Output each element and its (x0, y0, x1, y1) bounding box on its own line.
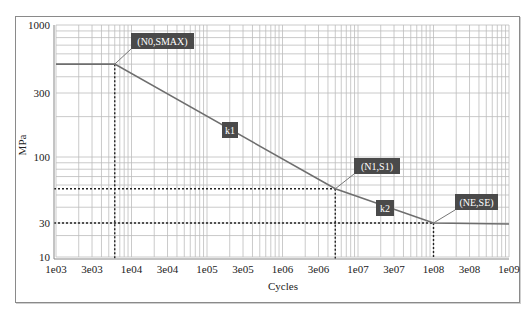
sn-curve-chart: 1e033e031e043e041e053e051e063e061e073e07… (0, 0, 528, 336)
x-tick-label: 3e05 (232, 263, 254, 275)
annotation-ne-se-text: (NE,SE) (459, 197, 493, 209)
x-tick-label: 1e09 (498, 263, 520, 275)
annotations: (N0,SMAX)k1(N1,S1)k2(NE,SE) (115, 33, 498, 223)
x-tick-label: 1e05 (196, 263, 218, 275)
x-tick-label: 1e07 (347, 263, 369, 275)
y-tick-label: 10 (39, 251, 51, 263)
x-tick-label: 1e04 (121, 263, 143, 275)
annotation-k2-text: k2 (380, 203, 390, 214)
x-tick-label: 3e07 (383, 263, 405, 275)
x-tick-label: 3e06 (308, 263, 330, 275)
y-tick-label: 1000 (28, 19, 51, 31)
annotation-leader (434, 210, 456, 223)
y-tick-label: 30 (39, 217, 51, 229)
annotation-n0-smax-text: (N0,SMAX) (137, 36, 187, 48)
y-axis-label: MPa (16, 134, 28, 155)
x-tick-label: 1e03 (45, 263, 67, 275)
x-tick-label: 1e08 (423, 263, 445, 275)
x-tick-label: 3e03 (81, 263, 103, 275)
annotation-n1-s1-text: (N1,S1) (361, 161, 393, 173)
x-tick-label: 3e08 (459, 263, 481, 275)
grid (56, 25, 509, 257)
annotation-leader (115, 49, 131, 64)
annotation-k1-text: k1 (225, 125, 235, 136)
x-tick-label: 3e04 (157, 263, 179, 275)
x-tick-label: 1e06 (272, 263, 294, 275)
y-tick-label: 100 (34, 151, 51, 163)
y-tick-label: 300 (34, 87, 51, 99)
x-axis-label: Cycles (268, 280, 298, 292)
